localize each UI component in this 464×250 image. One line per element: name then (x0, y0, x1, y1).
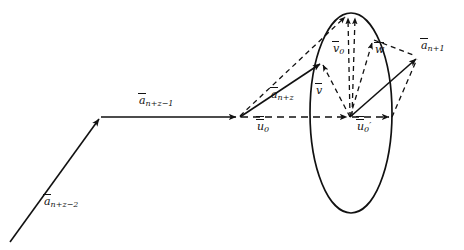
label-v-0-sub: 0 (339, 47, 344, 56)
vector-diagram: an+z−2 an+z−1 an+z an+1 u0 u0′ v v0 w (0, 0, 464, 250)
label-a-n-plus-z-base: a (271, 89, 278, 100)
label-a-n-plus-z-minus-1: an+z−1 (139, 95, 173, 108)
label-u-0-base: u (257, 121, 264, 132)
label-a-n-plus-z-minus-1-sub: n+z−1 (146, 99, 174, 108)
label-u-0-prime-mark: ′ (369, 121, 371, 131)
vector-v (323, 65, 350, 117)
label-a-n-plus-z-minus-1-base: a (139, 95, 146, 106)
label-u-0-sub: 0 (264, 125, 269, 134)
label-u-0-prime-base: u (357, 121, 364, 132)
chord-right-to-top (352, 18, 355, 116)
label-a-n-plus-1: an+1 (421, 40, 445, 53)
label-w-base: w (375, 44, 384, 55)
label-u-0: u0 (257, 121, 269, 134)
label-v-0: v0 (333, 43, 344, 56)
label-a-n-plus-z-minus-2-sub: n+z−2 (51, 200, 79, 209)
label-v-0-base: v (333, 43, 339, 54)
vector-v-0 (348, 18, 350, 117)
label-u-0-prime: u0′ (357, 121, 371, 134)
diagram-canvas (0, 0, 464, 250)
parallelogram-right-edge (392, 59, 417, 117)
vector-a-n-plus-z-minus-2 (10, 119, 99, 242)
label-a-n-plus-1-sub: n+1 (428, 44, 445, 53)
label-w: w (375, 44, 384, 55)
label-a-n-plus-z-minus-2-base: a (44, 196, 51, 207)
label-a-n-plus-z-minus-2: an+z−2 (44, 196, 78, 209)
label-a-n-plus-1-base: a (421, 40, 428, 51)
label-v-base: v (316, 85, 322, 96)
vector-a-n-plus-1 (350, 59, 416, 117)
label-a-n-plus-z-sub: n+z (278, 93, 294, 102)
label-a-n-plus-z: an+z (271, 89, 294, 102)
label-v: v (316, 85, 322, 96)
